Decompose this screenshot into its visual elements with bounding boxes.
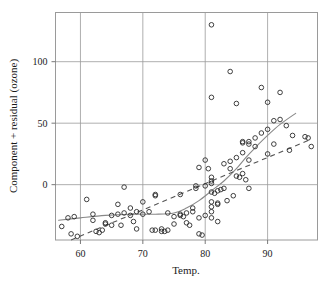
component-residual-plot: 60708090 050100 Temp. Component + residu… (0, 0, 328, 284)
x-axis-label: Temp. (172, 264, 200, 276)
x-tick-label: 90 (263, 248, 273, 259)
chart-background (0, 0, 328, 284)
y-axis-label: Component + residual (ozone) (7, 59, 20, 194)
x-tick-label: 60 (75, 248, 85, 259)
chart-canvas: 60708090 050100 Temp. Component + residu… (0, 0, 328, 284)
x-tick-label: 70 (138, 248, 148, 259)
x-tick-label: 80 (200, 248, 210, 259)
y-tick-label: 0 (43, 179, 48, 190)
y-tick-label: 100 (33, 56, 48, 67)
y-tick-label: 50 (38, 118, 48, 129)
